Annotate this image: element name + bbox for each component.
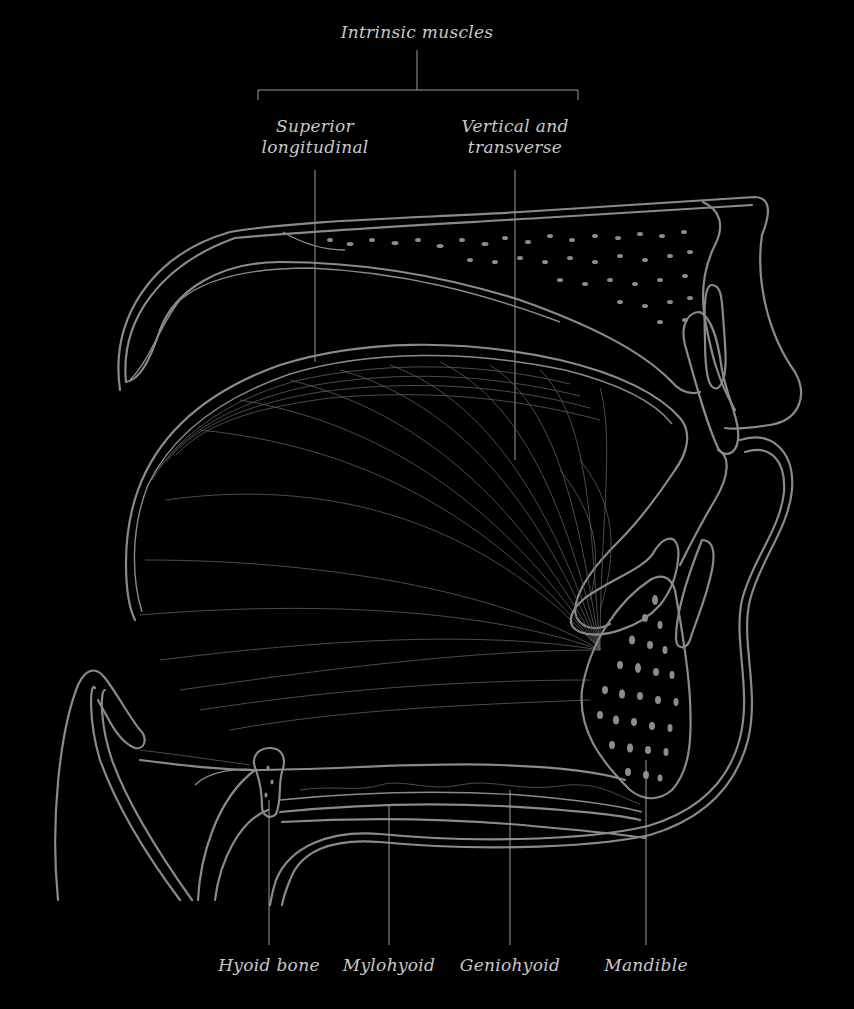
mandible-label: Mandible bbox=[604, 955, 688, 976]
vertical-transverse-line1: Vertical and bbox=[461, 116, 568, 137]
lower-incisor-outline bbox=[571, 539, 714, 648]
genioglossus-fibers bbox=[140, 362, 607, 730]
superior-longitudinal-line1: Superior bbox=[261, 116, 368, 137]
geniohyoid-label: Geniohyoid bbox=[460, 955, 560, 976]
hyoid-bone-label: Hyoid bone bbox=[218, 955, 320, 976]
lower-lip-outline bbox=[270, 437, 792, 905]
intrinsic-muscles-bracket bbox=[258, 50, 578, 460]
palate-marrow bbox=[327, 230, 693, 324]
vertical-transverse-label: Vertical and transverse bbox=[461, 116, 568, 158]
superior-longitudinal-line2: longitudinal bbox=[261, 137, 368, 158]
intrinsic-muscles-label: Intrinsic muscles bbox=[341, 22, 494, 43]
mylohyoid-label: Mylohyoid bbox=[343, 955, 436, 976]
vertical-transverse-line2: transverse bbox=[461, 137, 568, 158]
tongue-sagittal-diagram bbox=[0, 0, 854, 1009]
mandible-outline bbox=[582, 577, 691, 799]
superior-longitudinal-label: Superior longitudinal bbox=[261, 116, 368, 158]
